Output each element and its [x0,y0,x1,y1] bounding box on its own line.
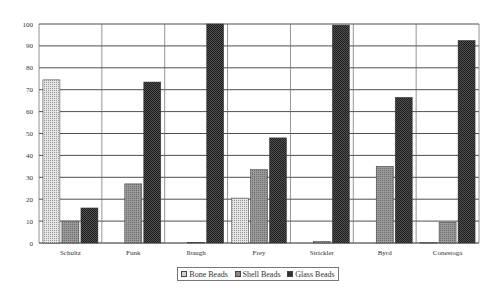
x-category-label: Funk [126,249,141,257]
legend-item-shell: Shell Beads [235,270,281,279]
bar [125,184,142,243]
y-tick-label: 20 [26,196,34,204]
shell-swatch-icon [235,271,241,277]
legend: Bone Beads Shell Beads Glass Beads [177,267,339,281]
bar [395,97,412,243]
bar [332,25,349,243]
x-category-label: Byrd [378,249,393,257]
x-category-label: Strickler [310,249,335,257]
bar [376,166,393,243]
x-category-label: Frey [253,249,266,257]
x-category-label: Schultz [60,249,81,257]
y-tick-label: 60 [26,108,34,116]
y-tick-label: 0 [30,240,34,248]
bar [207,24,224,243]
y-tick-label: 70 [26,86,34,94]
bar [62,221,79,243]
bar [251,170,268,243]
bar [43,80,60,243]
glass-swatch-icon [287,271,293,277]
y-tick-label: 40 [26,152,34,160]
y-tick-label: 30 [26,174,34,182]
bar [81,208,98,243]
y-tick-label: 90 [26,42,34,50]
bar [420,243,437,244]
x-axis-labels: SchultzFunkIbaughFreyStricklerByrdConest… [60,249,463,257]
x-category-label: Conestoga [433,249,463,257]
bar [144,82,161,243]
y-tick-label: 100 [23,21,34,29]
legend-item-bone: Bone Beads [181,270,227,279]
y-axis-ticks: 0102030405060708090100 [23,21,34,248]
y-tick-label: 10 [26,218,34,226]
bar [458,40,475,243]
x-category-label: Ibaugh [186,249,206,257]
legend-item-glass: Glass Beads [287,270,334,279]
bar [439,222,456,243]
bone-swatch-icon [181,271,187,277]
legend-label: Shell Beads [243,270,281,279]
bar-chart: 0102030405060708090100 SchultzFunkIbaugh… [0,0,504,294]
bar [270,138,287,243]
y-tick-label: 80 [26,64,34,72]
y-tick-label: 50 [26,130,34,138]
legend-label: Bone Beads [189,270,227,279]
bar [313,241,330,243]
bar [188,242,205,243]
legend-label: Glass Beads [295,270,334,279]
bar [232,198,249,243]
